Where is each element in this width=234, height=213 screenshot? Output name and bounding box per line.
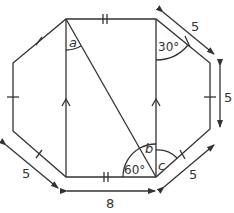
length-label-right: 5 [224, 90, 232, 105]
tick-mark [36, 37, 42, 45]
angle-label-60: 60° [124, 163, 145, 177]
angle-label-30: 30° [158, 40, 179, 54]
length-label-bottom-right: 5 [189, 167, 197, 182]
length-label-top-right: 5 [191, 19, 199, 34]
angle-label-a: a [69, 35, 77, 50]
angle-label-c: c [158, 158, 165, 173]
angle-label-b: b [145, 141, 153, 156]
diagram-canvas: a 30° 60° b c 5 5 5 5 8 [0, 0, 234, 213]
length-label-bottom: 8 [106, 196, 114, 211]
geometry-diagram: a 30° 60° b c 5 5 5 5 8 [0, 0, 234, 213]
diagonal [66, 19, 156, 177]
dimension-arrow-bottom-left [6, 145, 58, 188]
length-label-bottom-left: 5 [22, 166, 30, 181]
angle-arc-c [156, 150, 177, 158]
